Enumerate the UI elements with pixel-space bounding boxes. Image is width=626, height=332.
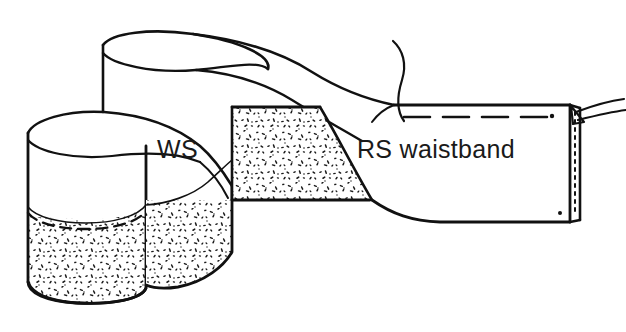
waistband-illustration: WS RS waistband: [0, 0, 626, 332]
notch-dots: [550, 114, 562, 215]
waistband-drawing-canvas: WS RS waistband: [0, 0, 626, 332]
label-wrong-side: WS: [157, 135, 198, 163]
center-interfacing-block: [228, 103, 378, 205]
right-waistband-panel: [372, 105, 570, 222]
front-fold-lobe: [28, 112, 232, 186]
notch-dot-lower: [558, 211, 562, 215]
right-end-tab: [570, 105, 584, 222]
loose-thread: [393, 41, 404, 121]
left-end-cylinder: [10, 133, 160, 315]
label-right-side-waistband: RS waistband: [357, 135, 515, 163]
thread-tails: [576, 99, 626, 120]
notch-dot-upper: [550, 114, 554, 118]
center-block-fill: [228, 103, 378, 205]
